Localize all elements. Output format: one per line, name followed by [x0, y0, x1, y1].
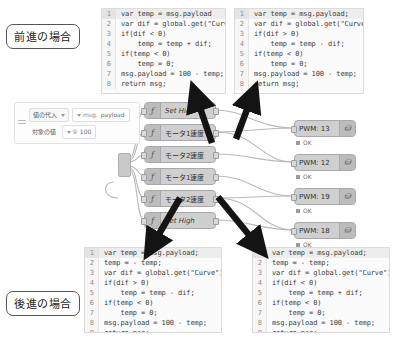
code-line: 3var dif = global.get("Curve"); — [85, 268, 221, 278]
flow-node-label: モータ2速度 — [161, 150, 204, 160]
change-node-property-editor[interactable]: 値の代入 msg. payload 対象の値 — [14, 102, 140, 144]
node-input-port[interactable] — [291, 160, 297, 167]
code-line: 3if(dif > 0) — [235, 29, 363, 39]
flow-node-set-high-2[interactable]: ƒ Set High — [144, 212, 216, 229]
flow-node-set-high-1[interactable]: ƒ Set High — [144, 102, 216, 119]
code-line: 2temp = - temp; — [85, 258, 221, 268]
flow-node-motor2-speed-a[interactable]: ƒ モータ2速度 — [144, 146, 216, 163]
line-number: 4 — [85, 278, 99, 288]
line-number: 4 — [253, 278, 267, 288]
line-source: msg.payload = 100 - temp; — [267, 318, 375, 328]
code-panel-forward-left: 1var temp = msg.payload2var dif = global… — [101, 8, 226, 94]
flow-node-motor1-speed-b[interactable]: ƒ モータ1速度 — [144, 168, 216, 185]
flow-node-label: モータ2速度 — [161, 194, 204, 204]
line-source: temp = - temp; — [267, 258, 330, 268]
function-icon: ƒ — [145, 103, 161, 118]
property-type-chip[interactable]: msg. — [77, 109, 98, 121]
property-type-label: msg. — [83, 109, 98, 121]
line-number: 8 — [253, 318, 267, 328]
line-number: 5 — [85, 288, 99, 298]
rule-property-field[interactable]: msg. payload — [72, 108, 130, 122]
drag-handle-icon[interactable] — [18, 120, 26, 127]
flow-node-pwm-12[interactable]: PWM: 12 ⛁ — [294, 154, 356, 171]
target-value-number: 100 — [80, 126, 91, 138]
line-number: 9 — [253, 328, 267, 333]
line-number: 2 — [235, 19, 249, 29]
line-source: if(temp < 0) — [116, 49, 170, 59]
chevron-down-icon — [77, 114, 81, 117]
node-input-port[interactable] — [291, 228, 297, 235]
line-source: temp = temp + dif; — [267, 288, 363, 298]
node-input-port[interactable] — [141, 108, 147, 115]
flow-node-motor2-speed-b[interactable]: ƒ モータ2速度 — [144, 190, 216, 207]
raspberry-pi-icon: ⛁ — [339, 121, 355, 136]
node-input-port[interactable] — [291, 126, 297, 133]
code-line: 6 temp = 0; — [235, 59, 363, 69]
line-source: temp = 0; — [249, 59, 308, 69]
node-output-port[interactable] — [213, 196, 219, 203]
forward-case-label: 前進の場合 — [6, 24, 80, 49]
code-line: 5 temp = temp + dif; — [253, 288, 389, 298]
flow-node-label: モータ1速度 — [161, 172, 204, 182]
node-input-port[interactable] — [291, 194, 297, 201]
flow-node-label: PWM: 13 — [295, 125, 330, 133]
line-source: if(dif < 0) — [267, 278, 317, 288]
node-input-port[interactable] — [141, 218, 147, 225]
line-number: 4 — [235, 39, 249, 49]
code-line: 2var dif = global.get("Curve"); — [235, 19, 363, 29]
target-type-chip[interactable]: 9 — [67, 126, 77, 138]
code-line: 9return msg; — [253, 328, 389, 333]
node-input-port[interactable] — [141, 152, 147, 159]
code-line: 7 temp = 0; — [253, 308, 389, 318]
node-output-port[interactable] — [213, 130, 219, 137]
change-rule-row-1[interactable]: 値の代入 msg. payload — [29, 109, 130, 121]
status-dot-icon — [296, 175, 300, 179]
status-text: OK — [303, 241, 312, 248]
target-value-field[interactable]: 9 100 — [62, 125, 96, 139]
line-source: var temp = msg.payload; — [99, 248, 199, 258]
line-number: 5 — [102, 49, 116, 59]
chevron-down-icon — [67, 131, 71, 134]
line-number: 8 — [85, 318, 99, 328]
code-line: 1var temp = msg.payload — [102, 9, 225, 19]
flow-node-pwm-19[interactable]: PWM: 19 ⛁ — [294, 188, 356, 205]
status-dot-icon — [296, 209, 300, 213]
line-number: 8 — [235, 79, 249, 89]
change-rule-row-2[interactable]: 対象の値 9 100 — [29, 126, 96, 138]
code-line: 4if(dif > 0) — [85, 278, 221, 288]
code-panel-reverse-left: 1var temp = msg.payload;2temp = - temp;3… — [84, 247, 222, 333]
line-source: if(dif < 0) — [116, 29, 166, 39]
flow-node-pwm-18[interactable]: PWM: 18 ⛁ — [294, 222, 356, 239]
node-output-port[interactable] — [213, 152, 219, 159]
code-line: 4 temp = temp + dif; — [102, 39, 225, 49]
code-line: 2temp = - temp; — [253, 258, 389, 268]
flow-node-pwm-13[interactable]: PWM: 13 ⛁ — [294, 120, 356, 137]
node-output-port[interactable] — [213, 174, 219, 181]
flow-node-label: PWM: 12 — [295, 159, 330, 167]
line-source: var dif = global.get("Curve"); — [267, 268, 390, 278]
line-source: return msg; — [116, 79, 166, 89]
junction-node[interactable] — [118, 153, 131, 177]
line-number: 1 — [235, 9, 249, 19]
line-source: temp = temp + dif; — [116, 39, 212, 49]
flow-node-motor1-speed-a[interactable]: ƒ モータ1速度 — [144, 124, 216, 141]
node-input-port[interactable] — [141, 174, 147, 181]
node-input-port[interactable] — [141, 130, 147, 137]
node-input-port[interactable] — [141, 196, 147, 203]
status-text: OK — [303, 139, 312, 146]
node-red-flow-canvas[interactable]: 値の代入 msg. payload 対象の値 — [6, 98, 388, 240]
line-number: 2 — [102, 19, 116, 29]
node-output-port[interactable] — [213, 218, 219, 225]
line-source: return msg; — [99, 328, 149, 333]
node-output-port[interactable] — [213, 108, 219, 115]
line-number: 2 — [85, 258, 99, 268]
line-number: 3 — [102, 29, 116, 39]
raspberry-pi-icon: ⛁ — [339, 223, 355, 238]
code-line: 6if(temp < 0) — [85, 298, 221, 308]
code-line: 5 temp = temp - dif; — [85, 288, 221, 298]
status-dot-icon — [296, 141, 300, 145]
code-line: 9return msg; — [85, 328, 221, 333]
line-source: return msg; — [249, 79, 299, 89]
code-line: 1var temp = msg.payload; — [85, 248, 221, 258]
rule-action-select[interactable]: 値の代入 — [29, 108, 69, 122]
